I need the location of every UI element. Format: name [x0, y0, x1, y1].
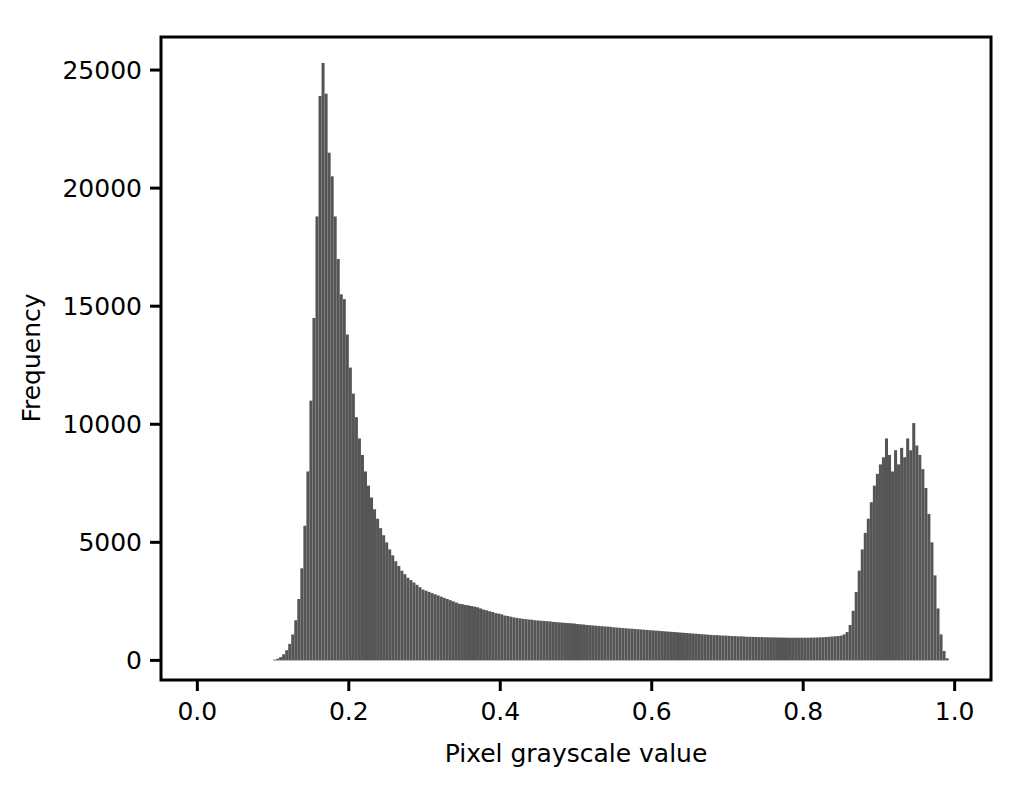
histogram-bar	[534, 620, 537, 660]
histogram-bar	[428, 592, 431, 660]
histogram-bar	[358, 438, 361, 660]
histogram-bar	[767, 637, 770, 660]
histogram-bar	[600, 626, 603, 660]
histogram-bar	[691, 633, 694, 660]
histogram-bar	[491, 612, 494, 660]
histogram-bar	[585, 625, 588, 660]
histogram-bar	[894, 450, 897, 660]
histogram-bar	[470, 606, 473, 660]
histogram-bar	[737, 636, 740, 660]
histogram-bar	[930, 542, 933, 660]
y-tick-label: 20000	[62, 174, 142, 203]
histogram-bar	[652, 630, 655, 660]
histogram-bar	[515, 618, 518, 661]
histogram-bar	[655, 631, 658, 661]
histogram-bar	[567, 623, 570, 660]
histogram-bar	[452, 601, 455, 660]
histogram-bar	[867, 519, 870, 661]
histogram-bar	[897, 464, 900, 660]
histogram-bar	[791, 638, 794, 661]
histogram-bar	[543, 621, 546, 660]
histogram-bar	[624, 628, 627, 660]
histogram-bar	[288, 644, 291, 661]
histogram-bar	[319, 96, 322, 660]
histogram-bar	[682, 633, 685, 661]
histogram-bar	[946, 658, 949, 660]
histogram-bar	[709, 635, 712, 661]
histogram-bar	[876, 474, 879, 661]
histogram-bar	[564, 623, 567, 661]
y-tick-label: 10000	[62, 410, 142, 439]
histogram-bar	[518, 618, 521, 660]
histogram-bar	[579, 624, 582, 660]
histogram-bar	[740, 636, 743, 660]
histogram-bar	[618, 628, 621, 661]
histogram-bar	[721, 636, 724, 661]
histogram-bar	[297, 599, 300, 660]
histogram-bar	[312, 318, 315, 660]
histogram-bar	[855, 592, 858, 660]
histogram-bar	[294, 620, 297, 660]
histogram-bar	[537, 620, 540, 660]
x-tick-group: 0.00.20.40.60.81.0	[177, 680, 974, 726]
histogram-bar	[924, 488, 927, 660]
x-tick-label: 0.4	[480, 697, 520, 726]
histogram-bar	[921, 469, 924, 660]
histogram-bar	[667, 632, 670, 661]
histogram-bar	[879, 464, 882, 660]
histogram-bar	[634, 629, 637, 660]
histogram-bar	[861, 549, 864, 660]
histogram-bar	[906, 438, 909, 660]
x-tick-label: 0.6	[632, 697, 672, 726]
histogram-bar	[615, 628, 618, 661]
histogram-bar	[285, 650, 288, 660]
y-axis-label: Frequency	[17, 293, 46, 422]
histogram-bar	[343, 299, 346, 660]
histogram-bar	[346, 335, 349, 661]
histogram-bar	[449, 600, 452, 660]
histogram-bar	[558, 622, 561, 660]
histogram-bar	[697, 634, 700, 660]
histogram-bar	[773, 637, 776, 660]
histogram-bar	[415, 585, 418, 661]
histogram-bar	[506, 616, 509, 660]
plot-canvas: 0.00.20.40.60.81.0 050001000015000200002…	[0, 0, 1030, 790]
histogram-bar	[830, 637, 833, 661]
histogram-bar	[594, 626, 597, 661]
histogram-bar	[325, 94, 328, 661]
histogram-bar	[915, 446, 918, 661]
histogram-bar	[482, 610, 485, 661]
histogram-bar	[437, 595, 440, 660]
histogram-bar	[364, 471, 367, 660]
histogram-bar	[409, 580, 412, 660]
histogram-bar	[730, 636, 733, 660]
histogram-bar	[824, 637, 827, 660]
histogram-bar	[555, 622, 558, 660]
histogram-bar	[806, 638, 809, 661]
histogram-bar	[927, 514, 930, 660]
histogram-bar	[331, 176, 334, 660]
histogram-bar	[315, 216, 318, 660]
histogram-bar	[512, 617, 515, 660]
histogram-bar	[940, 634, 943, 660]
histogram-bar	[576, 624, 579, 660]
histogram-bar	[882, 457, 885, 660]
histogram-bar	[837, 636, 840, 660]
histogram-bar	[818, 637, 821, 660]
histogram-bar	[591, 625, 594, 660]
histogram-bar	[273, 660, 276, 661]
histogram-bar	[497, 614, 500, 661]
histogram-bar	[870, 502, 873, 660]
histogram-bar	[340, 294, 343, 660]
histogram-bar	[473, 607, 476, 661]
x-axis-label: Pixel grayscale value	[445, 739, 708, 768]
histogram-bar	[661, 631, 664, 660]
histogram-bar	[370, 497, 373, 660]
histogram-bar	[864, 533, 867, 661]
x-tick-label: 1.0	[935, 697, 975, 726]
histogram-bar	[776, 638, 779, 661]
histogram-bar	[679, 633, 682, 661]
histogram-bar	[434, 594, 437, 660]
histogram-bar	[815, 638, 818, 661]
histogram-bar	[509, 617, 512, 661]
